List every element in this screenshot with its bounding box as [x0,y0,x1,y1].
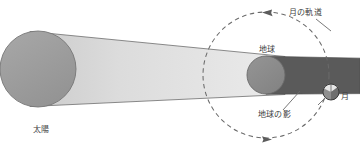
sun-circle [0,31,76,107]
sun-body [0,31,76,107]
earth-shadow-label: 地球の影 [258,111,291,119]
earth-circle [247,56,285,94]
orbit-arrow-top [262,9,273,16]
moon-body [323,84,339,100]
sun-label: 太陽 [33,126,49,134]
earth-body [247,56,285,94]
eclipse-diagram: 太陽 月の軌道 地球 地球の影 月 [0,0,360,152]
moon-label: 月 [341,93,349,101]
moon-orbit-label: 月の軌道 [289,9,322,17]
moon-orbit-tick [318,98,325,105]
earth-label: 地球 [259,46,275,54]
diagram-canvas [0,0,360,152]
orbit-arrow-bottom [262,136,272,142]
moon-orbit-leader-line [316,19,331,31]
